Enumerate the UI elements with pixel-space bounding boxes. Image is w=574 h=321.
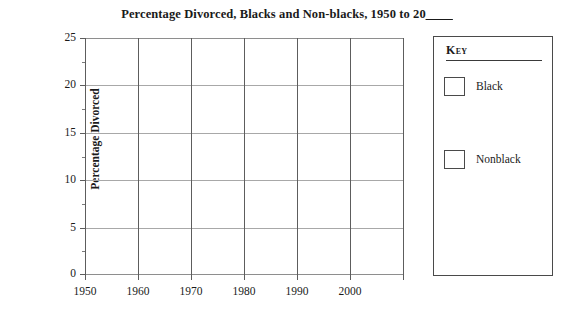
x-tick-mark-1980 xyxy=(244,275,245,280)
chart-title: Percentage Divorced, Blacks and Non-blac… xyxy=(0,7,574,22)
x-tick-label-1990: 1990 xyxy=(286,286,309,298)
legend-swatch-icon-nonblack xyxy=(444,150,465,169)
y-tick-mark-25 xyxy=(80,38,85,39)
y-tick-label-5: 5 xyxy=(46,222,76,234)
y-tick-label-25: 25 xyxy=(46,32,76,44)
y-tick-minor-22_5 xyxy=(82,62,85,63)
gridline-v-1960 xyxy=(138,38,139,275)
chart-title-blank: ____ xyxy=(426,7,453,21)
gridline-v-1980 xyxy=(244,38,245,275)
x-tick-mark-1960 xyxy=(138,275,139,280)
y-tick-label-15: 15 xyxy=(46,127,76,139)
x-tick-mark-1950 xyxy=(85,275,86,280)
y-tick-minor-7_5 xyxy=(82,204,85,205)
y-tick-mark-5 xyxy=(80,228,85,229)
x-tick-label-1960: 1960 xyxy=(127,286,150,298)
x-tick-mark-1990 xyxy=(297,275,298,280)
y-tick-mark-20 xyxy=(80,85,85,86)
chart-title-text: Percentage Divorced, Blacks and Non-blac… xyxy=(121,7,426,21)
x-tick-mark-2010 xyxy=(403,275,404,280)
gridline-v-1950 xyxy=(85,38,86,275)
legend-swatch-icon-black xyxy=(444,77,465,96)
y-tick-minor-17_5 xyxy=(82,109,85,110)
gridline-v-2010 xyxy=(403,38,404,275)
plot-area: Percentage Divorced 25 20 15 10 5 0 1950… xyxy=(85,38,404,275)
x-tick-mark-2000 xyxy=(350,275,351,280)
y-tick-label-0: 0 xyxy=(46,268,76,280)
gridline-v-1990 xyxy=(297,38,298,275)
y-tick-minor-2_5 xyxy=(82,251,85,252)
y-tick-label-10: 10 xyxy=(46,174,76,186)
x-tick-label-1970: 1970 xyxy=(180,286,203,298)
y-tick-mark-15 xyxy=(80,133,85,134)
x-tick-label-2000: 2000 xyxy=(339,286,362,298)
x-tick-mark-1970 xyxy=(191,275,192,280)
x-tick-label-1980: 1980 xyxy=(233,286,256,298)
x-tick-label-1950: 1950 xyxy=(74,286,97,298)
gridline-v-2000 xyxy=(350,38,351,275)
legend-label-black: Black xyxy=(476,81,503,93)
legend-heading: Key xyxy=(446,43,542,61)
legend-entry-nonblack: Nonblack xyxy=(444,150,521,169)
gridline-v-1970 xyxy=(191,38,192,275)
legend-entry-black: Black xyxy=(444,77,503,96)
y-axis-title: Percentage Divorced xyxy=(89,0,101,279)
legend-box: Key Black Nonblack xyxy=(433,36,553,276)
legend-label-nonblack: Nonblack xyxy=(476,154,521,166)
y-tick-minor-12_5 xyxy=(82,157,85,158)
y-tick-mark-10 xyxy=(80,180,85,181)
y-tick-label-20: 20 xyxy=(46,80,76,92)
